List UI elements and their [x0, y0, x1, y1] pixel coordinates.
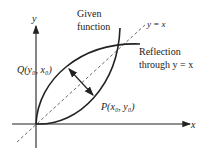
reflection-diagram: y x Given function y = x Reflection thro… [0, 0, 216, 155]
point-p-label: P(x₀, y₀) [100, 101, 135, 113]
y-axis-label: y [31, 13, 37, 24]
reflection-label-1: Reflection [139, 46, 181, 57]
reflection-arrow [69, 69, 93, 95]
reflection-label-2: through y = x [139, 59, 193, 70]
given-function-label-1: Given [77, 8, 101, 19]
x-axis-label: x [190, 119, 196, 130]
identity-line-label: y = x [146, 19, 166, 29]
given-function-label-2: function [77, 21, 110, 32]
point-q-label: Q(y₀, x₀) [17, 64, 52, 76]
